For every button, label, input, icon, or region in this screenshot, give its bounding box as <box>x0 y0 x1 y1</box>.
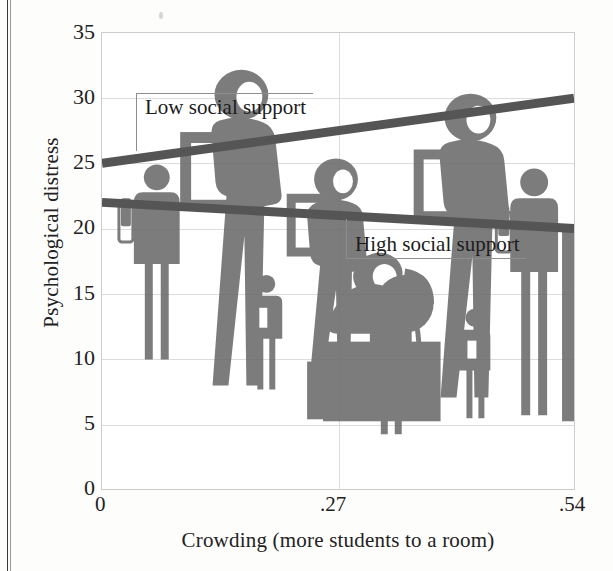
y-tick-10: 10 <box>51 347 95 369</box>
x-tick-0: 0 <box>95 494 106 515</box>
y-tick-35: 35 <box>51 21 95 43</box>
page-edge-line-secondary <box>10 0 11 571</box>
page-edge-line <box>7 0 8 571</box>
y-tick-25: 25 <box>51 151 95 173</box>
x-axis-title: Crowding (more students to a room) <box>101 528 575 553</box>
chart-figure: Psychological distress 35 30 25 20 15 10… <box>0 0 613 571</box>
y-tick-5: 5 <box>51 412 95 434</box>
y-axis-ticks: 35 30 25 20 15 10 5 0 <box>47 0 95 571</box>
x-tick-054: .54 <box>559 494 585 515</box>
x-tick-027: .27 <box>320 494 346 515</box>
y-tick-20: 20 <box>51 216 95 238</box>
line-high-social-support <box>102 202 574 228</box>
y-tick-30: 30 <box>51 86 95 108</box>
y-tick-0: 0 <box>51 477 95 499</box>
scan-speck <box>159 12 163 19</box>
annotation-high-social-support: High social support <box>346 231 526 259</box>
annotation-low-social-support: Low social support <box>136 93 313 121</box>
y-tick-15: 15 <box>51 282 95 304</box>
